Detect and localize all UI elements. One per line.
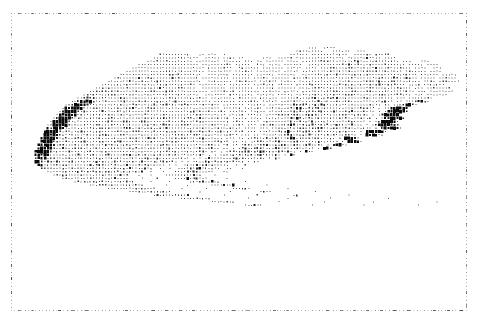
symbol-grid-surface (11, 13, 467, 311)
massachusetts-density-canvas (22, 26, 478, 324)
density-map-figure: Monochrome line-printer style population… (0, 0, 485, 326)
